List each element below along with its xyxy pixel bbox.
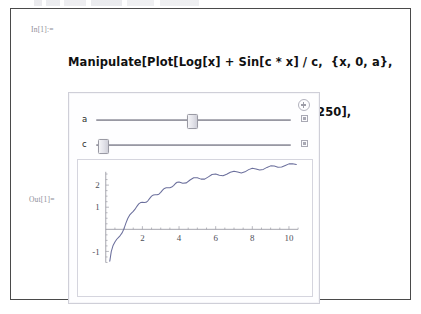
slider-handle-a[interactable]: [187, 114, 198, 129]
animate-square-icon-c[interactable]: [301, 140, 308, 147]
animate-square-icon-a[interactable]: [301, 115, 308, 122]
slider-label-a: a: [82, 114, 87, 124]
slider-row-c: c: [69, 138, 319, 152]
plot-tick-labels: 246810-112: [92, 180, 294, 256]
svg-text:4: 4: [177, 233, 182, 243]
svg-text:6: 6: [213, 233, 218, 243]
manipulate-controls-area: a c: [69, 93, 319, 155]
output-cell-label: Out[1]=: [29, 195, 55, 204]
svg-text:-1: -1: [92, 247, 99, 257]
scan-artifact-smudge: [34, 0, 199, 6]
svg-text:8: 8: [250, 233, 255, 243]
plot-output-panel: 246810-112: [77, 159, 313, 297]
plot-curve: [110, 164, 296, 262]
function-plot: 246810-112: [78, 160, 312, 296]
code-line-1: Manipulate[Plot[Log[x] + Sin[c * x] / c,…: [68, 54, 418, 71]
plot-axes: [106, 172, 298, 263]
svg-text:2: 2: [140, 233, 144, 243]
slider-label-c: c: [82, 139, 87, 149]
input-cell-label: In[1]:=: [31, 25, 54, 34]
plus-circle-icon[interactable]: [298, 99, 310, 111]
svg-text:2: 2: [95, 180, 99, 190]
slider-track-a[interactable]: [96, 119, 291, 121]
manipulate-panel: a c 246810-112: [68, 92, 320, 304]
svg-text:10: 10: [285, 233, 294, 243]
svg-text:1: 1: [95, 202, 99, 212]
notebook-cell: In[1]:= Manipulate[Plot[Log[x] + Sin[c *…: [10, 8, 411, 300]
slider-handle-c[interactable]: [98, 139, 109, 154]
slider-track-c[interactable]: [96, 144, 291, 146]
slider-row-a: a: [69, 113, 319, 127]
